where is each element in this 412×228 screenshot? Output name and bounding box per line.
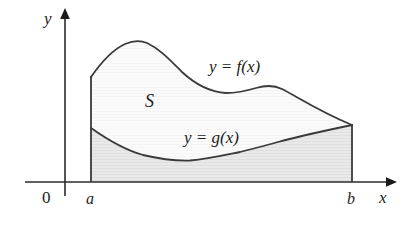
y-axis-label: y (42, 9, 52, 28)
x-axis-arrow-icon (386, 177, 397, 187)
figure-container: y x 0 a b S y = f(x) y = g(x) (0, 0, 412, 228)
curve-label-g: y = g(x) (182, 128, 239, 147)
area-between-curves-figure: y x 0 a b S y = f(x) y = g(x) (0, 0, 412, 228)
y-axis-arrow-icon (60, 8, 70, 19)
region-label-s: S (145, 91, 154, 111)
curve-label-f: y = f(x) (207, 57, 260, 76)
lower-limit-label-a: a (86, 190, 94, 207)
x-axis-label: x (378, 188, 387, 207)
origin-label: 0 (42, 188, 51, 207)
upper-limit-label-b: b (347, 190, 355, 207)
